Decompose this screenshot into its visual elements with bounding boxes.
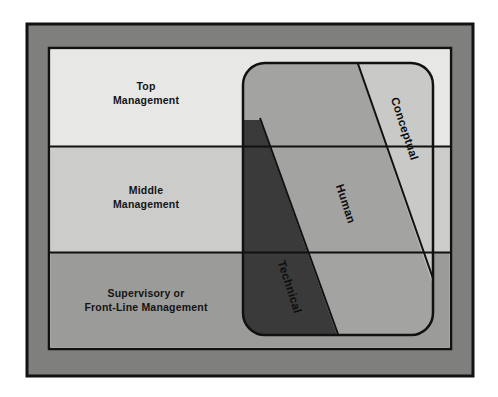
band-label-top-line2: Management bbox=[113, 94, 179, 106]
management-skills-diagram: Top Management Middle Management Supervi… bbox=[0, 0, 498, 397]
band-label-middle-line2: Management bbox=[113, 198, 179, 210]
band-label-supervisory-line1: Supervisory or bbox=[108, 287, 185, 299]
band-label-middle-line1: Middle bbox=[129, 184, 163, 196]
band-label-top-line1: Top bbox=[136, 80, 155, 92]
diagram-canvas: Top Management Middle Management Supervi… bbox=[0, 0, 498, 397]
band-label-supervisory-line2: Front-Line Management bbox=[84, 301, 208, 313]
